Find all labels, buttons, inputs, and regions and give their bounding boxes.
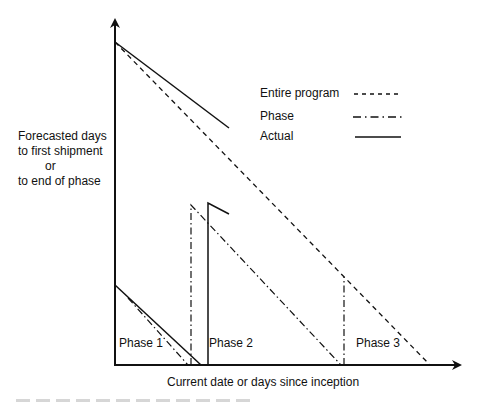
y-axis-label-line1: Forecasted days [18, 129, 107, 144]
entire-program-actual-line [115, 42, 229, 128]
y-axis-label-line2: to first shipment [18, 144, 107, 159]
legend-actual: Actual [260, 129, 293, 143]
phase2-label: Phase 2 [209, 336, 253, 350]
y-axis-label-line4: to end of phase [18, 174, 107, 189]
legend-phase: Phase [260, 109, 294, 123]
y-axis-label-line3: or [18, 159, 107, 174]
y-axis-label: Forecasted days to first shipment or to … [18, 129, 107, 189]
phase1-label: Phase 1 [119, 336, 163, 350]
phase3-label: Phase 3 [356, 336, 400, 350]
figure-caption-truncated [16, 399, 256, 402]
phase1-actual-line [115, 285, 201, 365]
phase1-forecast-line [128, 298, 188, 365]
x-axis-label: Current date or days since inception [167, 375, 359, 389]
legend-entire-program: Entire program [260, 86, 339, 100]
